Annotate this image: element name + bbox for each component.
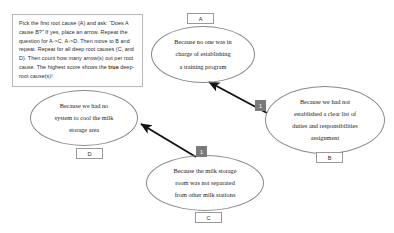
- cause-node-b-line-2: established a clear list of: [294, 108, 356, 120]
- instruction-segment-0: Pick the first root cause (A) and ask: “…: [19, 20, 134, 70]
- cause-node-c-line-3: from other milk stations: [175, 189, 236, 201]
- cause-node-b-line-1: Because we had not: [300, 96, 350, 108]
- node-tag-d[interactable]: D: [76, 148, 103, 159]
- cause-node-a-line-3: a training program: [180, 61, 227, 73]
- node-tag-b[interactable]: B: [316, 152, 343, 163]
- cause-node-d[interactable]: Because we had no system to cool the mil…: [30, 90, 138, 146]
- cause-node-c-line-1: Because the milk storage: [173, 165, 236, 177]
- cause-node-d-line-3: storage area: [69, 124, 99, 136]
- cause-node-a-line-2: charge of establishing: [175, 48, 230, 60]
- cause-node-b[interactable]: Because we had not established a clear l…: [265, 86, 385, 154]
- root-cause-diagram-canvas: Pick the first root cause (A) and ask: “…: [0, 0, 394, 233]
- cause-node-a-line-1: Because no one was in: [174, 36, 231, 48]
- cause-node-a[interactable]: Because no one was in charge of establis…: [151, 26, 255, 83]
- arrow-count-badge-c: 1: [196, 146, 207, 157]
- cause-node-b-line-3: duties and responsibilities: [292, 120, 357, 132]
- node-tag-a[interactable]: A: [187, 13, 214, 24]
- cause-node-d-line-2: system to cool the milk: [55, 112, 114, 124]
- cause-node-c-line-2: room was not separated: [175, 177, 235, 189]
- instruction-segment-1: true: [108, 64, 118, 70]
- cause-node-b-line-4: assignment: [311, 132, 339, 144]
- arrow-count-badge-b: 1: [255, 100, 266, 111]
- cause-node-c[interactable]: Because the milk storage room was not se…: [146, 155, 264, 211]
- arrow-c-to-d: [141, 124, 196, 157]
- root-cause-instruction: Pick the first root cause (A) and ask: “…: [12, 14, 143, 87]
- node-tag-c[interactable]: C: [195, 212, 222, 223]
- cause-node-d-line-1: Because we had no: [60, 100, 108, 112]
